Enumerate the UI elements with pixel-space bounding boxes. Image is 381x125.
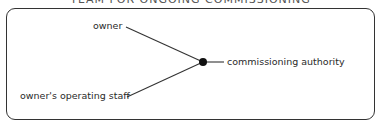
edge-staff-junction	[127, 62, 203, 97]
node-label-commissioning-authority: commissioning authority	[227, 56, 345, 67]
node-label-owner: owner	[93, 20, 122, 31]
junction-node	[199, 58, 207, 66]
edge-owner-junction	[126, 27, 203, 62]
node-label-operating-staff: owner's operating staff	[20, 90, 130, 101]
